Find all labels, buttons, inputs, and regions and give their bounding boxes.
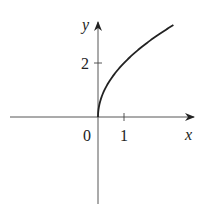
sqrt-curve	[98, 25, 173, 117]
x-axis-label: x	[184, 126, 192, 143]
origin-label: 0	[83, 127, 91, 144]
graph: y 2 0 1 x	[0, 0, 206, 206]
y-axis-label: y	[80, 16, 90, 34]
y-tick-label-2: 2	[81, 55, 89, 72]
x-tick-label-1: 1	[120, 127, 128, 144]
